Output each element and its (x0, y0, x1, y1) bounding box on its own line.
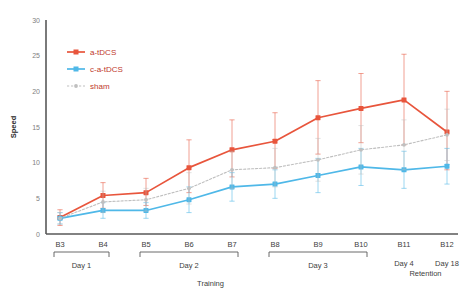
group-bracket-day-3 (269, 252, 367, 257)
legend-label-c-a-tDCS: c-a-tDCS (90, 65, 123, 74)
data-point-a-tDCS-B11 (402, 97, 407, 102)
x-tick-label-B6: B6 (184, 240, 193, 249)
series-line-c-a-tDCS (60, 166, 447, 218)
series-line-sham (60, 135, 447, 218)
y-tick-label-15: 15 (32, 124, 40, 131)
x-tick-label-B9: B9 (313, 240, 322, 249)
x-axis-title: Training (197, 279, 224, 288)
data-point-sham-B8 (273, 166, 277, 170)
x-tick-label-B5: B5 (141, 240, 150, 249)
y-tick-label-0: 0 (36, 231, 40, 238)
data-point-a-tDCS-B6 (187, 165, 192, 170)
x-tick-label-B7: B7 (227, 240, 236, 249)
data-point-sham-B12 (445, 133, 449, 137)
speed-line-chart: 051015202530SpeedB3B4B5B6B7B8B9B10B11B12… (0, 0, 466, 298)
data-point-sham-B7 (230, 168, 234, 172)
data-point-sham-B11 (402, 143, 406, 147)
y-tick-label-10: 10 (32, 159, 40, 166)
legend-item-sham[interactable]: sham (67, 82, 110, 91)
data-point-c-a-tDCS-B12 (445, 164, 450, 169)
x-tick-label-B11: B11 (398, 240, 411, 249)
group-label-day-1: Day 1 (72, 261, 92, 270)
legend-label-sham: sham (90, 82, 110, 91)
data-point-sham-B5 (144, 198, 148, 202)
data-point-sham-B9 (316, 158, 320, 162)
y-tick-label-5: 5 (36, 195, 40, 202)
data-point-a-tDCS-B10 (359, 106, 364, 111)
data-point-sham-B3 (58, 216, 62, 220)
data-point-sham-B6 (187, 186, 191, 190)
group-label-day-18: Day 18 (435, 259, 459, 268)
legend-item-a-tDCS[interactable]: a-tDCS (67, 48, 116, 57)
data-point-sham-B4 (101, 200, 105, 204)
x-tick-label-B4: B4 (98, 240, 107, 249)
retention-label: Retention (409, 269, 441, 278)
y-tick-label-30: 30 (32, 17, 40, 24)
x-tick-label-B12: B12 (440, 240, 453, 249)
data-point-a-tDCS-B9 (316, 115, 321, 120)
group-label-day-3: Day 3 (308, 261, 328, 270)
y-tick-label-25: 25 (32, 52, 40, 59)
group-bracket-day-2 (140, 252, 238, 257)
x-tick-label-B3: B3 (55, 240, 64, 249)
chart-container: 051015202530SpeedB3B4B5B6B7B8B9B10B11B12… (0, 0, 466, 298)
group-label-day-2: Day 2 (179, 261, 199, 270)
y-tick-label-20: 20 (32, 88, 40, 95)
x-tick-label-B10: B10 (354, 240, 367, 249)
data-point-sham-B10 (359, 148, 363, 152)
legend-item-c-a-tDCS[interactable]: c-a-tDCS (67, 65, 123, 74)
data-point-a-tDCS-B8 (273, 139, 278, 144)
series-line-a-tDCS (60, 100, 447, 218)
legend-label-a-tDCS: a-tDCS (90, 48, 116, 57)
group-label-day-4: Day 4 (394, 259, 414, 268)
group-bracket-day-1 (54, 252, 109, 257)
y-axis-title: Speed (9, 115, 18, 138)
x-tick-label-B8: B8 (270, 240, 279, 249)
